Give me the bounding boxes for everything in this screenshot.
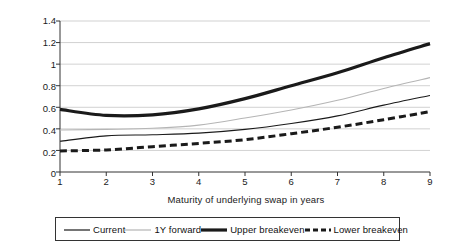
legend-item[interactable]: 1Y forward	[125, 224, 201, 235]
y-tick-label: 1.2	[26, 38, 56, 48]
x-tick-label: 4	[187, 176, 211, 187]
y-tick-label: 0.4	[26, 126, 56, 136]
legend-item[interactable]: Upper breakeven	[201, 224, 304, 235]
series-line-lower-breakeven	[60, 112, 430, 151]
legend-swatch-thin-solid-light-icon	[125, 225, 151, 234]
legend-swatch-thick-solid-icon	[201, 225, 227, 234]
x-tick-label: 7	[326, 176, 350, 187]
x-tick-label: 8	[372, 176, 396, 187]
x-tick-label: 6	[279, 176, 303, 187]
legend-label: Lower breakeven	[334, 224, 408, 235]
x-tick-label: 5	[233, 176, 257, 187]
y-tick-label: 0.6	[26, 104, 56, 114]
legend-item[interactable]: Lower breakeven	[305, 224, 408, 235]
plot-area	[0, 0, 457, 251]
legend-label: 1Y forward	[154, 224, 201, 235]
chart-figure: Rate in percent 1.4 1.2 1 0.8 0.6 0.4 0.…	[0, 0, 457, 251]
x-axis-title: Maturity of underlying swap in years	[60, 194, 432, 205]
chart-legend: Current1Y forwardUpper breakevenLower br…	[55, 217, 400, 241]
series-line-upper-breakeven	[60, 44, 430, 116]
x-tick-label: 3	[141, 176, 165, 187]
x-tick-label: 1	[48, 176, 72, 187]
legend-swatch-thin-solid-icon	[64, 225, 90, 234]
legend-item[interactable]: Current	[64, 224, 125, 235]
y-tick-label: 1.4	[26, 16, 56, 26]
plot-canvas	[0, 0, 457, 251]
x-tick-label: 2	[94, 176, 118, 187]
y-axis-ticks: 1.4 1.2 1 0.8 0.6 0.4 0.2 0	[26, 0, 56, 251]
legend-swatch-thick-dashed-icon	[305, 225, 331, 234]
y-tick-label: 0.2	[26, 148, 56, 158]
y-tick-label: 1	[26, 60, 56, 70]
y-tick-label: 0.8	[26, 82, 56, 92]
x-tick-label: 9	[418, 176, 442, 187]
legend-label: Upper breakeven	[230, 224, 304, 235]
legend-label: Current	[93, 224, 125, 235]
